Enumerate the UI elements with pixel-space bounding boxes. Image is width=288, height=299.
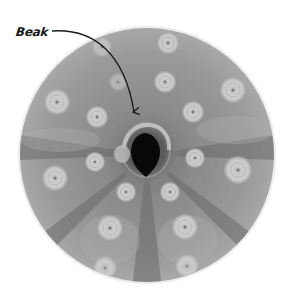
tubercle bbox=[224, 156, 252, 184]
tubercle bbox=[44, 89, 70, 115]
tubercle bbox=[154, 71, 176, 93]
tubercle bbox=[116, 182, 136, 202]
tubercle bbox=[97, 215, 123, 241]
sea-urchin-figure bbox=[0, 0, 288, 299]
tubercle bbox=[185, 148, 205, 168]
tubercle bbox=[182, 101, 204, 123]
tubercle bbox=[42, 165, 68, 191]
tubercle bbox=[172, 214, 198, 240]
tubercle bbox=[85, 152, 105, 172]
tubercle bbox=[220, 77, 246, 103]
tubercle bbox=[160, 182, 180, 202]
tubercle bbox=[86, 106, 108, 128]
tubercle bbox=[157, 32, 179, 54]
mouth-region bbox=[112, 118, 180, 186]
lip-lobe bbox=[114, 145, 130, 163]
